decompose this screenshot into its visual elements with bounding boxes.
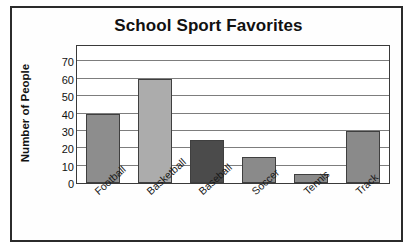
- plot-area: [76, 45, 390, 184]
- chart-title: School Sport Favorites: [12, 16, 405, 36]
- chart-frame: School Sport Favorites Number of People …: [10, 6, 403, 242]
- y-tick-label-30: 30: [34, 126, 74, 137]
- y-tick-label-20: 20: [34, 144, 74, 155]
- y-tick-label-0: 0: [34, 179, 74, 190]
- y-tick-label-40: 40: [34, 109, 74, 120]
- y-tick-label-60: 60: [34, 74, 74, 85]
- y-tick-label-50: 50: [34, 92, 74, 103]
- y-axis-tick-labels: 010203040506070: [30, 45, 74, 184]
- y-tick-label-70: 70: [34, 57, 74, 68]
- x-axis-tick-labels: FootballBasketballBaseballSoccerTennisTr…: [76, 186, 390, 242]
- bar-series: [77, 46, 389, 183]
- y-tick-label-10: 10: [34, 161, 74, 172]
